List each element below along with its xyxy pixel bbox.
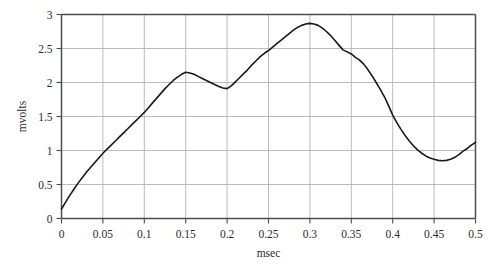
x-axis-tick-labels: 00.050.10.150.20.250.30.350.40.450.5	[59, 228, 483, 240]
y-axis-tick-label: 0.5	[38, 179, 53, 191]
x-axis-tick-label: 0.35	[341, 228, 361, 240]
x-axis-tick-label: 0.45	[424, 228, 444, 240]
y-axis-tick-label: 0	[47, 213, 53, 225]
axis-ticks	[57, 15, 476, 224]
x-axis-tick-label: 0	[59, 228, 65, 240]
y-axis-tick-label: 3	[47, 9, 53, 21]
y-axis-title: mvolts	[16, 100, 28, 132]
y-axis-tick-label: 2	[47, 77, 53, 89]
grid-lines	[62, 15, 476, 219]
x-axis-tick-label: 0.25	[258, 228, 278, 240]
x-axis-tick-label: 0.05	[93, 228, 113, 240]
y-axis-tick-label: 1.5	[38, 111, 53, 123]
x-axis-title: msec	[257, 247, 281, 259]
y-axis-tick-label: 1	[47, 145, 53, 157]
x-axis-tick-label: 0.4	[386, 228, 401, 240]
line-chart: 00.511.522.5300.050.10.150.20.250.30.350…	[0, 0, 501, 266]
x-axis-tick-label: 0.5	[468, 228, 483, 240]
y-axis-tick-labels: 00.511.522.53	[38, 9, 53, 225]
x-axis-tick-label: 0.2	[220, 228, 235, 240]
x-axis-tick-label: 0.3	[303, 228, 318, 240]
x-axis-tick-label: 0.1	[137, 228, 152, 240]
chart-figure: 00.511.522.5300.050.10.150.20.250.30.350…	[0, 0, 501, 266]
x-axis-tick-label: 0.15	[176, 228, 196, 240]
y-axis-tick-label: 2.5	[38, 43, 53, 55]
